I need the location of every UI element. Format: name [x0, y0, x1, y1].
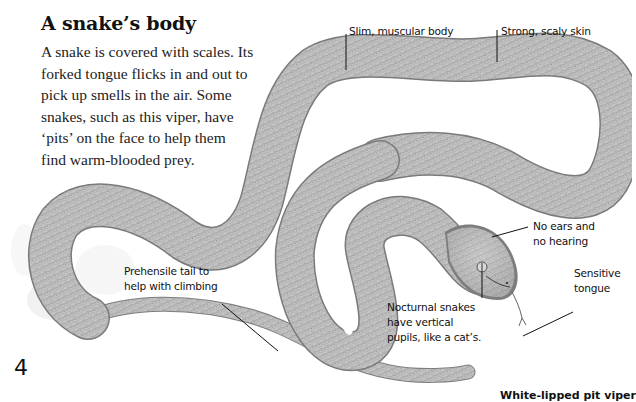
intro-line: snakes, such as this viper, have	[41, 106, 281, 128]
label-text: Prehensile tail to	[124, 264, 218, 279]
label-text: help with climbing	[124, 279, 218, 294]
label-strong-scaly-skin: Strong, scaly skin	[501, 24, 591, 39]
intro-line: forked tongue flicks in and out to	[41, 63, 281, 85]
label-slim-muscular-body: Slim, muscular body	[349, 24, 453, 39]
label-text: pupils, like a cat’s.	[387, 330, 481, 345]
intro-line: pick up smells in the air. Some	[41, 84, 281, 106]
label-text: Strong, scaly skin	[501, 24, 591, 39]
species-caption: White-lipped pit viper	[500, 389, 636, 402]
label-nocturnal-pupils: Nocturnal snakes have vertical pupils, l…	[387, 300, 481, 345]
label-prehensile-tail: Prehensile tail to help with climbing	[124, 264, 218, 294]
label-text: No ears and	[533, 219, 595, 234]
page-number: 4	[14, 355, 28, 380]
intro-line: find warm-blooded prey.	[41, 149, 281, 171]
label-no-ears: No ears and no hearing	[533, 219, 595, 249]
label-text: tongue	[574, 281, 621, 296]
intro-line: ‘pits’ on the face to help them	[41, 127, 281, 149]
label-text: Sensitive	[574, 266, 621, 281]
label-text: no hearing	[533, 234, 595, 249]
intro-line: A snake is covered with scales. Its	[41, 41, 281, 63]
intro-paragraph: A snake is covered with scales. Its fork…	[41, 41, 281, 171]
label-text: Nocturnal snakes	[387, 300, 481, 315]
label-sensitive-tongue: Sensitive tongue	[574, 266, 621, 296]
label-text: Slim, muscular body	[349, 24, 453, 39]
label-text: have vertical	[387, 315, 481, 330]
page-title: A snake’s body	[41, 12, 196, 34]
